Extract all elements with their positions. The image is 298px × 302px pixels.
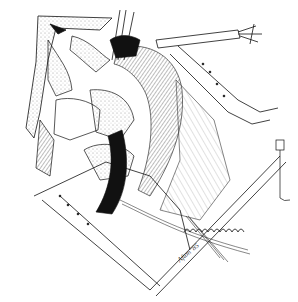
surgical-illustration	[0, 0, 298, 302]
